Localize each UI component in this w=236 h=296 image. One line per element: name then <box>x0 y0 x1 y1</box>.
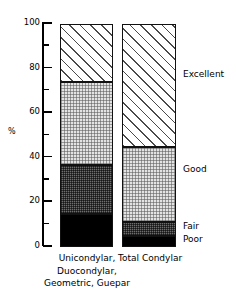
segment-excellent <box>60 24 113 82</box>
segment-poor <box>122 236 176 247</box>
segment-good <box>60 82 113 165</box>
category-label-line-2: Duocondylar, <box>28 265 146 278</box>
y-tick-60 <box>43 111 52 113</box>
y-tick-40 <box>43 156 52 158</box>
y-tick-50 <box>43 134 49 136</box>
segment-excellent <box>122 24 176 147</box>
category-label-total-condylar: Total Condylar <box>118 252 180 265</box>
y-tick-label-80: 80 <box>29 63 40 72</box>
y-tick-label-40: 40 <box>29 152 40 161</box>
category-label-line-3: Geometric, Guepar <box>28 277 146 290</box>
segment-good <box>122 147 176 223</box>
category-label-line-1: Total Condylar <box>118 252 180 265</box>
y-tick-80 <box>43 67 52 69</box>
y-tick-label-100: 100 <box>24 18 40 27</box>
legend-label-fair: Fair <box>183 222 199 231</box>
stacked-bar-chart: 100 80 60 40 20 0 % Excellent Good Fair … <box>0 0 236 296</box>
legend-label-good: Good <box>183 165 207 174</box>
y-tick-label-20: 20 <box>29 196 40 205</box>
y-tick-100 <box>43 22 52 24</box>
y-tick-20 <box>43 200 52 202</box>
y-tick-90 <box>43 44 49 46</box>
y-tick-0 <box>43 245 52 247</box>
y-tick-label-60: 60 <box>29 107 40 116</box>
segment-fair <box>60 165 113 214</box>
legend-label-excellent: Excellent <box>183 70 224 79</box>
legend-label-poor: Poor <box>183 235 203 244</box>
y-axis-title: % <box>8 128 16 136</box>
y-tick-10 <box>43 223 49 225</box>
segment-fair <box>122 222 176 235</box>
y-tick-label-0: 0 <box>35 241 40 250</box>
y-tick-30 <box>43 178 49 180</box>
y-tick-70 <box>43 89 49 91</box>
segment-poor <box>60 214 113 247</box>
